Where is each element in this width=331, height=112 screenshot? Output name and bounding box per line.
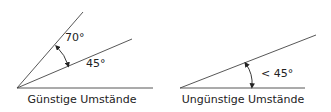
ray-45 [17,39,132,88]
favorable-panel: 70° 45° Günstige Umstände [17,12,153,106]
angle-arc-arrow [246,64,252,86]
caption-favorable: Günstige Umstände [27,93,136,106]
angle-label-lt45: < 45° [261,67,293,80]
unfavorable-panel: < 45° Ungünstige Umstände [180,35,316,106]
angle-label-70: 70° [65,31,85,44]
ray-70 [17,12,83,88]
caption-unfavorable: Ungünstige Umstände [182,93,305,106]
angle-arc-arrow [57,47,68,65]
angle-label-45: 45° [86,57,106,70]
angle-diagram: 70° 45° Günstige Umstände < 45° Ungünsti… [0,0,331,112]
ray-shallow [180,35,316,88]
